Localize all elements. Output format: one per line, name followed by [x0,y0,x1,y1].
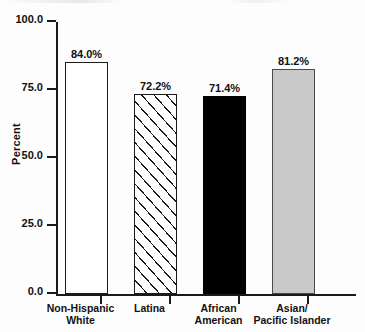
bar-asian-pacific-islander: 81.2% [272,69,315,294]
y-tick-label-25: 25.0 [22,217,43,229]
y-tick-50: 50.0 [47,156,56,158]
bar-non-hispanic-white: 84.0% [65,62,108,294]
y-tick-100: 100.0 [47,20,56,22]
bar-value-label-1: 72.2% [140,80,171,92]
bar-african-american: 71.4% [203,96,246,294]
x-category-label-3: Asian/ Pacific Islander [248,302,336,326]
y-tick-25: 25.0 [47,224,56,226]
x-category-label-2: African American [181,302,256,326]
y-tick-75: 75.0 [47,88,56,90]
bar-value-label-3: 81.2% [278,55,309,67]
y-axis-title: Percent [10,104,22,184]
bar-value-label-2: 71.4% [209,82,240,94]
y-axis-line [56,22,58,296]
y-tick-label-75: 75.0 [22,81,43,93]
scan-artifact [0,0,365,3]
bar-latina: 72.2% [134,94,177,294]
y-tick-label-100: 100.0 [15,13,43,25]
y-tick-label-50: 50.0 [22,149,43,161]
x-category-label-0: Non-Hispanic White [43,302,118,326]
plot-area: 0.0 25.0 50.0 75.0 100.0 84.0% 72.2% 71.… [56,22,356,296]
y-tick-0: 0.0 [47,292,56,294]
x-category-label-1: Latina [112,302,187,314]
bar-value-label-0: 84.0% [71,48,102,60]
bar-chart: Percent 0.0 25.0 50.0 75.0 100.0 84.0% [0,0,365,332]
y-tick-label-0: 0.0 [28,285,43,297]
